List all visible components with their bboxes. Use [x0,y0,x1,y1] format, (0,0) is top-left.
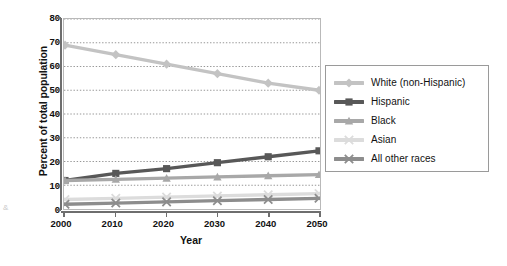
data-point-marker [314,86,320,95]
x-tick-label: 2030 [193,218,237,229]
data-point-marker [111,50,120,59]
legend-marker-cross-icon [334,133,364,147]
series-white-non-hispanic [64,41,320,95]
legend-item[interactable]: Hispanic [326,92,488,111]
legend-marker-cross-icon [334,152,364,166]
data-point-marker [315,147,320,154]
x-tick-label: 2040 [244,218,288,229]
x-tick-label: 2000 [39,218,83,229]
legend-label: White (non-Hispanic) [371,77,465,88]
x-tick-label: 2020 [141,218,185,229]
legend-marker-triangle-icon [334,114,364,128]
chart-legend: White (non-Hispanic)HispanicBlackAsianAl… [325,65,489,172]
legend-marker-diamond-icon [334,76,364,90]
data-point-marker [345,98,352,105]
data-point-marker [213,69,222,78]
data-point-marker [265,153,272,160]
population-projection-chart: Percent of total population 010203040506… [0,0,507,266]
plot-area [63,18,321,210]
legend-label: Black [371,115,396,126]
data-point-marker [344,78,353,87]
data-point-marker [264,79,273,88]
x-tick-label: 2010 [90,218,134,229]
x-axis-title: Year [60,234,322,246]
legend-item[interactable]: White (non-Hispanic) [326,73,488,92]
series-line [65,45,319,90]
legend-item[interactable]: Asian [326,130,488,149]
legend-item[interactable]: All other races [326,149,488,168]
legend-label: Hispanic [371,96,410,107]
data-point-marker [163,165,170,172]
legend-marker-square-icon [334,95,364,109]
data-point-marker [162,60,171,69]
scan-artifact: & [3,203,11,212]
legend-item[interactable]: Black [326,111,488,130]
data-point-marker [214,159,221,166]
data-point-marker [64,41,70,50]
x-tick-label: 2050 [295,218,339,229]
series-black [64,170,320,184]
legend-label: All other races [371,153,436,164]
x-axis-tick-labels: 200020102020203020402050 [60,218,322,234]
legend-label: Asian [371,134,396,145]
plot-series-svg [64,19,320,209]
